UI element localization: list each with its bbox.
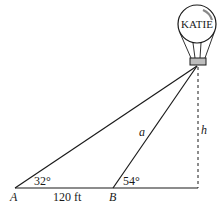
height-h-label: h — [201, 123, 207, 137]
angle-B-label: 54° — [123, 174, 140, 188]
angle-A-label: 32° — [34, 174, 51, 188]
side-a-label: a — [139, 125, 145, 139]
distance-AB-label: 120 ft — [53, 190, 82, 204]
balloon-basket — [190, 58, 206, 65]
balloon-label: KATIE — [181, 18, 213, 30]
point-B-label: B — [109, 190, 117, 204]
balloon-diagram: KATIE 32° 54° A 120 ft B a h — [0, 0, 223, 210]
point-A-label: A — [9, 190, 18, 204]
line-A-to-balloon — [15, 66, 197, 188]
line-B-to-balloon — [113, 66, 197, 188]
